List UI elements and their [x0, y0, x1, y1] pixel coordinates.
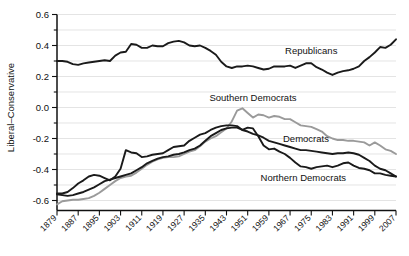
x-tick-label: 1967	[271, 213, 292, 234]
y-tick-label: 0.2	[36, 71, 49, 82]
x-tick-label: 1991	[335, 213, 356, 234]
x-tick-label: 1999	[356, 213, 377, 234]
y-axis: 0.60.40.20.0-0.2-0.4-0.6	[33, 9, 57, 211]
x-tick-label: 1951	[229, 213, 250, 234]
x-tick-label: 1887	[59, 213, 80, 234]
series-line-republicans	[57, 39, 396, 75]
series-label-democrats: Democrats	[283, 133, 329, 144]
y-tick-label: 0.4	[36, 40, 49, 51]
x-axis: 1879188718951903191119191927193519431951…	[38, 211, 398, 234]
x-tick-label: 1983	[313, 213, 334, 234]
chart-container: 0.60.40.20.0-0.2-0.4-0.6 187918871895190…	[0, 0, 409, 256]
x-tick-label: 1879	[38, 213, 59, 234]
x-tick-label: 1911	[123, 213, 143, 233]
y-tick-label: -0.4	[33, 164, 49, 175]
series-label-northern-democrats: Northern Democrats	[261, 172, 347, 183]
x-tick-label: 1895	[80, 213, 101, 234]
x-tick-label: 1927	[165, 213, 186, 234]
x-tick-label: 1903	[102, 213, 123, 234]
x-tick-label: 1935	[186, 213, 207, 234]
x-tick-label: 2007	[377, 213, 398, 234]
y-axis-title: Liberal–Conservative	[5, 63, 16, 152]
series-line-northern-democrats	[57, 125, 396, 193]
x-tick-label: 1975	[292, 213, 313, 234]
y-tick-label: -0.2	[33, 133, 49, 144]
series-label-southern-democrats: Southern Democrats	[209, 92, 296, 103]
line-chart: 0.60.40.20.0-0.2-0.4-0.6 187918871895190…	[0, 0, 409, 256]
x-tick-label: 1919	[144, 213, 165, 234]
y-tick-label: 0.0	[36, 102, 49, 113]
y-tick-label: 0.6	[36, 9, 49, 20]
x-tick-label: 1959	[250, 213, 271, 234]
series-label-republicans: Republicans	[285, 45, 338, 56]
y-tick-label: -0.6	[33, 195, 49, 206]
x-tick-label: 1943	[207, 213, 228, 234]
